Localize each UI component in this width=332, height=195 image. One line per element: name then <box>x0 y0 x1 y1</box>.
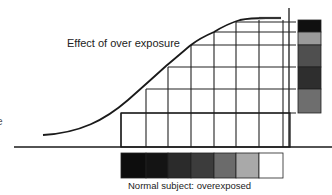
exposure-diagram <box>0 0 332 195</box>
tone-patch <box>146 153 168 178</box>
curve-annotation-label: Effect of over exposure <box>67 37 180 49</box>
caption-label: Normal subject: overexposed <box>128 180 251 191</box>
characteristic-curve <box>43 18 281 135</box>
left-edge-text-fragment: e <box>0 116 3 127</box>
tone-patch <box>298 89 321 113</box>
right-tone-strip <box>298 20 321 113</box>
tone-patch <box>298 32 321 45</box>
tone-patch <box>236 153 259 178</box>
tone-patch <box>259 153 283 178</box>
bottom-tone-strip <box>121 153 283 178</box>
tone-patch <box>298 67 321 89</box>
tone-patch <box>298 45 321 67</box>
tone-patch <box>121 153 146 178</box>
tone-patch <box>191 153 214 178</box>
tone-patch <box>214 153 236 178</box>
tone-patch <box>298 20 321 32</box>
tone-patch <box>168 153 191 178</box>
